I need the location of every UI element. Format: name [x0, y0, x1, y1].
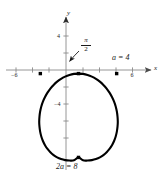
y-axis-label: y: [67, 10, 70, 17]
y-tick-label-4: 4: [57, 33, 60, 39]
label-a-equals-4: a = 4: [112, 54, 129, 62]
cardioid-figure: x y −6 6 4 −4 π 2 a = 4 2a = 8: [0, 0, 162, 184]
label-2a-equals-8: 2a = 8: [56, 163, 77, 171]
angle-denominator: 2: [80, 46, 92, 53]
x-tick-label-6: 6: [131, 72, 134, 78]
y-tick-label-minus4: −4: [54, 101, 60, 107]
x-axis-label: x: [154, 65, 157, 72]
cardioid-curve: [39, 74, 118, 161]
marker-right-intercept: [115, 72, 118, 75]
plot-canvas: [0, 0, 162, 184]
marker-left-intercept: [39, 72, 42, 75]
angle-leader-arrow: [70, 51, 79, 61]
x-tick-label-minus6: −6: [11, 72, 17, 78]
angle-label-pi-over-2: π 2: [80, 37, 92, 54]
marker-cusp: [77, 72, 80, 75]
angle-numerator: π: [80, 37, 92, 44]
marker-bottom-point: [77, 156, 80, 159]
